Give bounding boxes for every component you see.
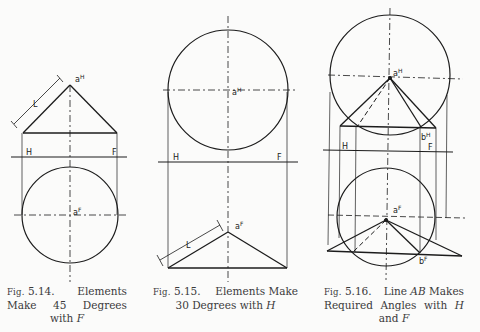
fig-5-16-caption-word: Required: [324, 299, 373, 312]
fig-5-15-caption-text: 30 Degrees with: [175, 299, 263, 311]
fig-5-16-front-centerline: [328, 215, 465, 218]
fig-5-16-caption: Fig. 5.16. Line AB Makes Required Angles…: [324, 285, 464, 325]
fig-5-14-caption-word: 45: [53, 299, 66, 312]
fig-5-16-front-triangles: [327, 220, 462, 256]
fig-5-14-caption: Fig. 5.14. Elements Make 45 Degrees with…: [7, 285, 127, 325]
fig-5-16-label-bH: bH: [421, 131, 431, 142]
fig-5-15-label-aH: aH: [232, 86, 241, 97]
fig-5-16-top-circle: [330, 15, 450, 135]
fig-5-14-caption-word: Make: [7, 299, 37, 312]
fig-5-15-caption-number: Fig. 5.15.: [153, 285, 201, 299]
fig-5-16-label-F: F: [428, 143, 433, 152]
fig-5-15-label-L: L: [186, 241, 191, 250]
fig-5-16-top-apex-dot: [389, 77, 392, 80]
fig-5-16-caption-number: Fig. 5.16.: [324, 285, 372, 299]
fig-5-16-label-aF: aF: [393, 204, 402, 215]
fig-5-16-label-aH: aH: [393, 67, 402, 78]
fig-5-15-caption: Fig. 5.15. Elements Make 30 Degrees with…: [153, 285, 298, 312]
fig-5-16-center-axis: [386, 8, 390, 280]
fig-5-14-caption-var: F: [77, 312, 84, 324]
fig-5-16-caption-var: AB: [410, 285, 425, 297]
fig-5-16-top-triangles: [340, 78, 436, 128]
fig-5-16-caption-word: Angles: [380, 299, 416, 312]
fig-5-16-label-H: H: [342, 142, 348, 151]
fig-5-15-caption-text: Elements Make: [215, 285, 298, 299]
fig-5-14-drawing: [11, 75, 127, 282]
figure-drawings: aH H F aF L aH H F aF L aH bH H F aF bF: [0, 0, 480, 332]
fig-5-14-caption-word: with: [50, 312, 73, 324]
fig-5-16-front-dashed-element: [353, 220, 386, 252]
fig-5-16-label-bF: bF: [419, 255, 428, 266]
fig-5-15-front-triangle: [168, 232, 287, 268]
fig-5-14-label-F: F: [112, 148, 117, 157]
fig-5-14-label-L: L: [33, 100, 38, 109]
fig-5-15-label-H: H: [173, 153, 179, 162]
fig-5-14-caption-word: Elements: [77, 285, 127, 299]
fig-5-16-caption-word: with: [424, 299, 447, 312]
fig-5-15-label-F: F: [277, 153, 282, 162]
fig-5-16-caption-var: H: [455, 299, 464, 312]
fig-5-16-caption-var: F: [402, 312, 409, 324]
fig-5-14-caption-number: Fig. 5.14.: [7, 285, 55, 299]
fig-5-16-top-dashed-element: [357, 78, 390, 127]
fig-5-16-caption-word: Makes: [429, 285, 464, 297]
fig-5-15-caption-var: H: [266, 299, 275, 311]
fig-5-15-drawing: [157, 16, 298, 282]
fig-5-16-caption-word: Line: [384, 285, 407, 297]
fig-5-14-label-H: H: [26, 148, 32, 157]
fig-5-16-caption-word: and: [379, 312, 399, 324]
fig-5-14-caption-word: Degrees: [83, 299, 127, 312]
fig-5-15-label-aF: aF: [235, 220, 244, 231]
fig-5-16-apex-dot: [385, 219, 388, 222]
fig-5-14-label-aH: aH: [75, 73, 84, 84]
